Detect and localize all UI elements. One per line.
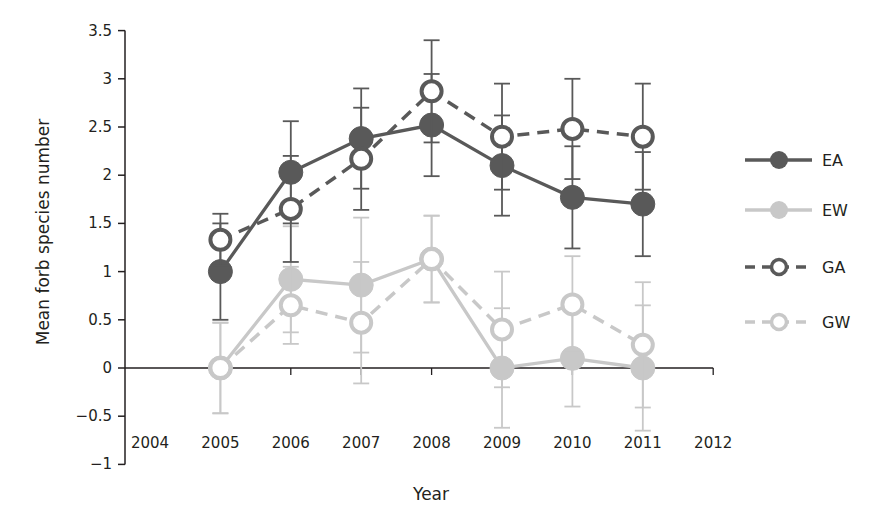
legend-item-ga: GA <box>745 258 845 277</box>
x-tick-label: 2012 <box>694 434 732 452</box>
legend-marker <box>772 260 787 275</box>
line-chart: 3.532.521.510.50−0.5−1 20042005200620072… <box>0 0 881 513</box>
x-tick-label: 2004 <box>131 434 169 452</box>
data-point <box>351 149 371 169</box>
legend-label: EA <box>822 151 843 170</box>
y-axis: 3.532.521.510.50−0.5−1 <box>76 22 125 474</box>
data-point <box>492 319 512 339</box>
y-tick-label: −0.5 <box>76 407 112 425</box>
x-tick-label: 2011 <box>624 434 662 452</box>
series-gw <box>210 216 652 414</box>
legend-marker <box>772 315 787 330</box>
data-point <box>492 127 512 147</box>
data-point <box>560 185 584 209</box>
y-tick-label: 2 <box>102 166 112 184</box>
legend-label: GA <box>822 258 845 277</box>
legend-item-ew: EW <box>745 201 848 220</box>
x-tick-label: 2006 <box>272 434 310 452</box>
data-point <box>351 313 371 333</box>
data-point <box>281 199 301 219</box>
data-point <box>631 192 655 216</box>
legend-label: GW <box>822 313 850 332</box>
y-tick-label: 1.5 <box>88 214 112 232</box>
x-axis: 200420052006200720082009201020112012 <box>125 368 732 452</box>
data-point <box>422 81 442 101</box>
legend-item-gw: GW <box>745 313 850 332</box>
y-tick-label: −1 <box>90 455 112 473</box>
legend-marker <box>770 201 788 219</box>
data-point <box>210 358 230 378</box>
legend: EAEWGAGW <box>745 151 850 332</box>
y-tick-label: 3.5 <box>88 22 112 40</box>
data-point <box>281 295 301 315</box>
x-tick-label: 2005 <box>201 434 239 452</box>
y-tick-label: 0 <box>102 359 112 377</box>
legend-label: EW <box>822 201 848 220</box>
data-point <box>562 119 582 139</box>
y-tick-label: 1 <box>102 263 112 281</box>
data-point <box>210 230 230 250</box>
legend-marker <box>770 151 788 169</box>
x-axis-title: Year <box>412 484 449 504</box>
data-point <box>633 335 653 355</box>
legend-item-ea: EA <box>745 151 843 170</box>
data-point <box>633 127 653 147</box>
x-tick-label: 2008 <box>413 434 451 452</box>
x-tick-label: 2010 <box>553 434 591 452</box>
y-axis-title: Mean forb species number <box>33 119 53 346</box>
data-point <box>422 249 442 269</box>
x-tick-label: 2009 <box>483 434 521 452</box>
y-tick-label: 2.5 <box>88 118 112 136</box>
y-tick-label: 0.5 <box>88 311 112 329</box>
data-point <box>562 294 582 314</box>
x-tick-label: 2007 <box>342 434 380 452</box>
y-tick-label: 3 <box>102 70 112 88</box>
